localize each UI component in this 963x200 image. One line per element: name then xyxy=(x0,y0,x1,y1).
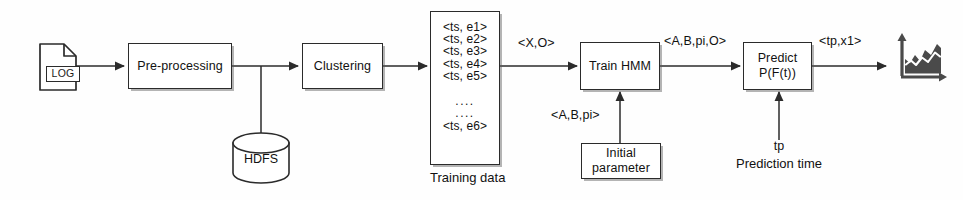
training-data-ellipsis: .... xyxy=(455,107,474,119)
edge-label-x-o: <X,O> xyxy=(518,36,555,50)
node-predict-label-line2: P(F(t)) xyxy=(759,66,796,81)
training-data-row: <ts, e3> xyxy=(443,45,487,57)
edge-label-tp-x1: <tp,x1> xyxy=(819,34,861,48)
node-initial-parameter-label-line1: Initial xyxy=(606,146,636,161)
prediction-time-symbol: tp xyxy=(758,139,800,153)
node-train-hmm[interactable]: Train HMM xyxy=(580,42,660,90)
training-data-row: <ts, e6> xyxy=(443,120,487,132)
node-initial-parameter-label-line2: parameter xyxy=(592,161,650,176)
node-training-data[interactable]: <ts, e1> <ts, e2> <ts, e3> <ts, e4> <ts,… xyxy=(430,11,500,165)
node-predict[interactable]: Predict P(F(t)) xyxy=(743,42,812,90)
node-clustering-label: Clustering xyxy=(314,59,371,74)
node-initial-parameter[interactable]: Initial parameter xyxy=(581,143,661,179)
training-data-row: <ts, e5> xyxy=(443,70,487,82)
pipeline-diagram: LOG Pre-processing HDFS Clustering <ts, … xyxy=(0,0,963,200)
node-train-hmm-label: Train HMM xyxy=(589,59,651,74)
hdfs-label: HDFS xyxy=(232,152,290,166)
training-data-caption: Training data xyxy=(430,170,500,185)
node-predict-label-line1: Predict xyxy=(758,51,798,66)
log-icon-label: LOG xyxy=(46,66,80,82)
area-chart-icon xyxy=(893,30,953,90)
node-preprocessing-label: Pre-processing xyxy=(137,59,222,74)
edge-label-a-b-pi-o: <A,B,pi,O> xyxy=(664,34,726,48)
node-preprocessing[interactable]: Pre-processing xyxy=(128,43,232,89)
prediction-time-caption: Prediction time xyxy=(724,156,834,171)
edge-label-a-b-pi: <A,B,pi> xyxy=(551,108,600,122)
node-clustering[interactable]: Clustering xyxy=(302,43,383,89)
